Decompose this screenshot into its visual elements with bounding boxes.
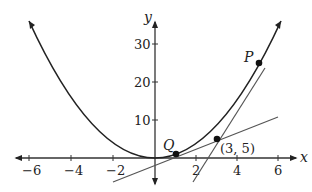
intersection-label: (3, 5) (220, 141, 255, 156)
x-axis-label: x (300, 149, 308, 165)
y-tick-label: 30 (134, 37, 151, 52)
point-p-label: P (243, 49, 254, 65)
y-axis-label: y (143, 9, 153, 25)
x-tick-label: 2 (192, 163, 200, 178)
x-tick-label: −6 (22, 163, 41, 178)
point-p (256, 60, 263, 67)
x-tick-label: −4 (64, 163, 83, 178)
x-tick-label: 4 (233, 163, 241, 178)
x-tick-label: −2 (106, 163, 125, 178)
x-tick-label: 6 (274, 163, 282, 178)
point-q-label: Q (163, 137, 175, 153)
y-tick-label: 20 (134, 75, 151, 90)
parabola-diagram: −6 −4 −2 2 4 6 10 20 30 x y P Q (3, 5) (0, 0, 312, 192)
y-tick-label: 10 (134, 113, 151, 128)
tangent-line-at-p (193, 68, 265, 182)
